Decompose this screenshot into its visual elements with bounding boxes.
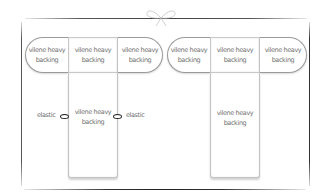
elastic-label-right: elastic (126, 111, 144, 119)
strip-label: vilene heavy backing (217, 108, 254, 128)
left-group-top-center-panel: vilene heavy backing (68, 37, 118, 73)
elastic-ring-left-icon (60, 114, 69, 119)
strip-label: vilene heavy backing (75, 107, 112, 127)
left-group-top-left-panel: vilene heavy backing (25, 37, 68, 73)
right-group-vertical-strip: vilene heavy backing (210, 73, 260, 178)
elastic-ring-right-icon (113, 114, 122, 119)
left-group-vertical-strip: vilene heavy backing (68, 73, 118, 178)
elastic-label-left: elastic (37, 111, 55, 119)
left-group-top-right-panel: vilene heavy backing (118, 37, 163, 73)
panel-label: vilene heavy backing (75, 45, 112, 65)
frame-right-edge (309, 22, 310, 186)
panel-label: vilene heavy backing (217, 45, 254, 65)
right-group-top-right-panel: vilene heavy backing (260, 37, 307, 73)
bow-icon (145, 7, 177, 27)
bottom-border-line (24, 189, 306, 190)
right-group-top-left-panel: vilene heavy backing (167, 37, 210, 73)
panel-label: vilene heavy backing (29, 45, 66, 65)
panel-label: vilene heavy backing (171, 45, 208, 65)
frame-left-edge (21, 22, 22, 186)
panel-label: vilene heavy backing (122, 45, 159, 65)
right-group-top-center-panel: vilene heavy backing (210, 37, 260, 73)
panel-label: vilene heavy backing (265, 45, 302, 65)
